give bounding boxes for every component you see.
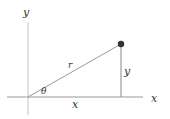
angle-label: θ bbox=[41, 86, 47, 96]
x-axis-label: x bbox=[151, 92, 158, 105]
radius-label: r bbox=[68, 60, 73, 70]
point-marker bbox=[118, 41, 124, 47]
y-leg-label: y bbox=[123, 65, 131, 78]
polar-coordinate-diagram: y x r θ x y bbox=[0, 0, 170, 119]
x-leg-label: x bbox=[72, 98, 79, 111]
y-axis-label: y bbox=[22, 6, 30, 19]
